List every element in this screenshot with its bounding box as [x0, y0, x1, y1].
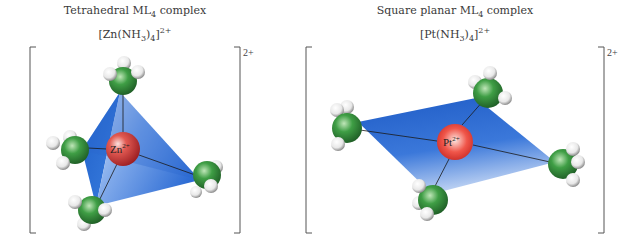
metal-symbol: Pt: [443, 136, 452, 148]
ammonia-ligand: [190, 160, 223, 198]
ammonia-ligand: [548, 142, 585, 187]
platinum-ion: Pt2+: [437, 124, 473, 160]
ammonia-ligand: [330, 100, 362, 151]
bracket-charge: 2+: [243, 47, 254, 58]
zinc-ion: Zn2+: [106, 132, 140, 166]
metal-symbol: Zn: [110, 143, 123, 155]
metal-charge: 2+: [122, 142, 130, 150]
ammonia-ligand: [103, 56, 145, 95]
diagram-canvas: 2+ Zn2+: [0, 0, 643, 249]
bracket-charge: 2+: [607, 47, 618, 58]
ammonia-ligand: [46, 130, 89, 170]
metal-charge: 2+: [452, 135, 460, 143]
